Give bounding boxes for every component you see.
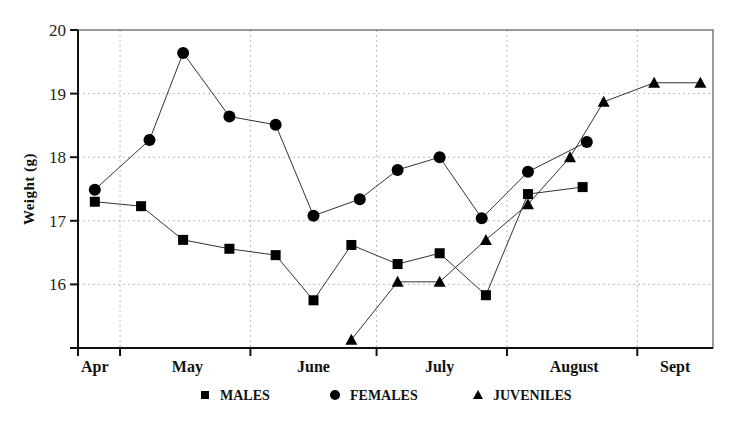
x-tick-label: June (297, 358, 330, 375)
marker-triangle (598, 96, 610, 107)
series-females (89, 47, 593, 224)
x-tick-label: August (550, 358, 600, 376)
y-tick-label: 17 (49, 212, 67, 231)
series-line-females (95, 53, 587, 218)
marker-circle (476, 212, 488, 224)
marker-circle (434, 151, 446, 163)
marker-circle (89, 184, 101, 196)
legend-item-males: MALES (201, 388, 270, 403)
y-tick-label: 16 (49, 275, 66, 294)
legend-item-juveniles: JUVENILES (473, 388, 572, 403)
series-line-males (95, 187, 583, 300)
y-axis-ticks: 1617181920 (49, 21, 78, 294)
marker-circle (330, 390, 340, 400)
legend: MALESFEMALESJUVENILES (201, 388, 572, 403)
y-tick-label: 19 (49, 85, 66, 104)
marker-square (271, 250, 281, 260)
marker-square (481, 290, 491, 300)
weight-chart: 1617181920 AprMayJuneJulyAugustSept Weig… (0, 0, 733, 426)
marker-circle (522, 166, 534, 178)
marker-circle (307, 210, 319, 222)
marker-circle (223, 110, 235, 122)
series (89, 47, 707, 345)
y-tick-label: 18 (49, 148, 66, 167)
y-tick-label: 20 (49, 21, 66, 40)
legend-label: JUVENILES (493, 388, 572, 403)
marker-square (178, 235, 188, 245)
marker-square (90, 197, 100, 207)
legend-label: FEMALES (350, 388, 418, 403)
marker-circle (581, 136, 593, 148)
x-tick-label: May (172, 358, 203, 376)
marker-square (393, 259, 403, 269)
x-tick-label: Sept (660, 358, 691, 376)
marker-triangle (345, 334, 357, 345)
marker-triangle (473, 390, 483, 399)
y-axis-label: Weight (g) (21, 153, 38, 225)
marker-circle (354, 193, 366, 205)
marker-triangle (480, 234, 492, 245)
series-line-juveniles (351, 83, 700, 340)
marker-square (523, 189, 533, 199)
marker-square (435, 248, 445, 258)
marker-circle (270, 119, 282, 131)
marker-square (201, 391, 209, 399)
marker-circle (143, 134, 155, 146)
marker-square (136, 201, 146, 211)
marker-circle (392, 164, 404, 176)
marker-square (346, 240, 356, 250)
x-tick-label: July (425, 358, 454, 376)
marker-square (578, 182, 588, 192)
x-tick-label: Apr (81, 358, 109, 376)
marker-square (308, 295, 318, 305)
series-juveniles (345, 77, 706, 345)
legend-item-females: FEMALES (330, 388, 418, 403)
marker-square (224, 244, 234, 254)
legend-label: MALES (220, 388, 270, 403)
series-males (90, 182, 588, 305)
x-axis-ticks: AprMayJuneJulyAugustSept (78, 348, 691, 376)
marker-circle (177, 47, 189, 59)
axes (70, 30, 713, 349)
